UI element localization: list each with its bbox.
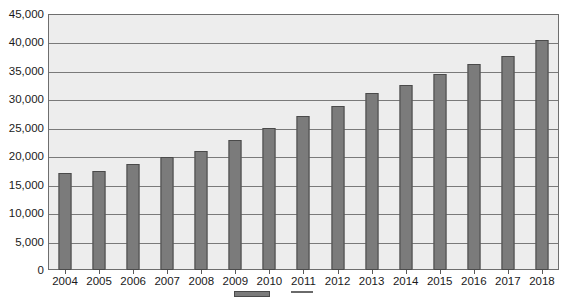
x-axis-tick-label: 2009 [218,274,252,288]
bar[interactable] [297,116,310,270]
x-axis-tick-label: 2010 [252,274,286,288]
x-axis-tick-label: 2015 [423,274,457,288]
bar[interactable] [263,128,276,270]
bar[interactable] [195,151,208,270]
bar-slot [491,14,525,270]
x-axis-tick-label: 2018 [525,274,559,288]
x-axis-tick-label: 2016 [457,274,491,288]
y-axis-tick-label: 10,000 [0,207,44,219]
bar-slot [252,14,286,270]
x-axis-tick-label: 2007 [150,274,184,288]
bar-slot [218,14,252,270]
x-axis-tick-label: 2008 [184,274,218,288]
bar[interactable] [229,140,242,270]
y-axis-tick-label: 45,000 [0,8,44,20]
bar-slot [525,14,559,270]
y-axis-tick-label: 5,000 [0,236,44,248]
x-axis-tick-label: 2017 [491,274,525,288]
bars-layer [48,14,559,270]
bar-slot [355,14,389,270]
bar[interactable] [467,64,480,270]
y-axis-tick-label: 25,000 [0,122,44,134]
x-axis-tick-label: 2014 [389,274,423,288]
y-axis-labels: 45,00040,00035,00030,00025,00020,00015,0… [0,0,44,301]
bar-slot [389,14,423,270]
bar-slot [150,14,184,270]
bar[interactable] [501,56,514,270]
legend-bar-swatch [234,291,270,297]
bar-slot [48,14,82,270]
bar-slot [82,14,116,270]
bar[interactable] [127,164,140,270]
bar-slot [423,14,457,270]
x-axis-tick-label: 2005 [82,274,116,288]
x-axis-labels: 2004200520062007200820092010201120122013… [48,274,559,290]
bar-slot [184,14,218,270]
bar[interactable] [433,74,446,270]
legend-item [291,291,318,293]
chart-legend [0,291,567,301]
y-axis-tick-label: 35,000 [0,65,44,77]
legend-item [234,291,275,297]
bar[interactable] [93,171,106,270]
x-axis-tick-label: 2012 [321,274,355,288]
y-axis-tick-label: 15,000 [0,179,44,191]
y-axis-tick-label: 40,000 [0,36,44,48]
bar[interactable] [59,173,72,270]
chart-title [0,0,567,5]
bar-slot [116,14,150,270]
y-axis-tick-label: 0 [0,264,44,276]
y-axis-tick-label: 30,000 [0,93,44,105]
bar[interactable] [365,93,378,270]
legend-line-swatch [291,291,313,293]
bar[interactable] [331,106,344,270]
bar-slot [286,14,320,270]
x-axis-tick-label: 2011 [286,274,320,288]
bar-slot [457,14,491,270]
x-axis-tick-label: 2006 [116,274,150,288]
y-axis-tick-label: 20,000 [0,150,44,162]
bar-chart: 45,00040,00035,00030,00025,00020,00015,0… [0,0,567,301]
bar-slot [321,14,355,270]
x-axis-tick-label: 2004 [48,274,82,288]
bar[interactable] [535,40,548,270]
x-axis-tick-label: 2013 [355,274,389,288]
bar[interactable] [399,85,412,270]
bar[interactable] [161,157,174,270]
